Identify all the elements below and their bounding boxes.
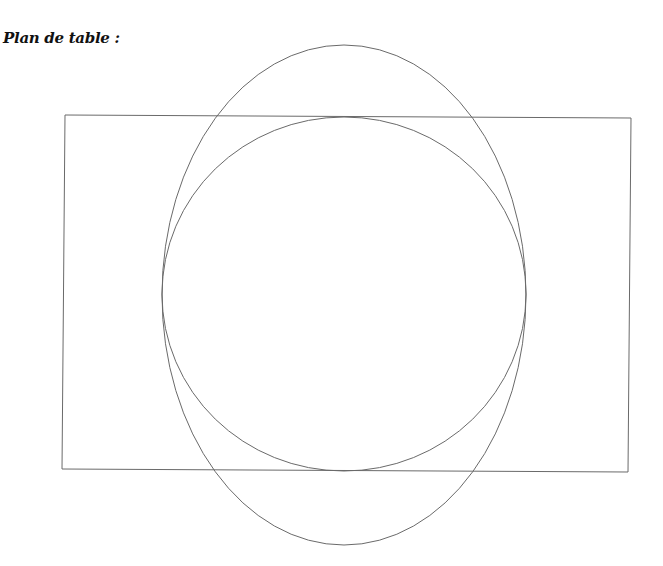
diagram-canvas: Plan de table : xyxy=(0,0,663,566)
round-table-circle xyxy=(162,117,526,471)
table-plan-diagram xyxy=(0,0,663,566)
table-rectangle xyxy=(62,115,631,472)
